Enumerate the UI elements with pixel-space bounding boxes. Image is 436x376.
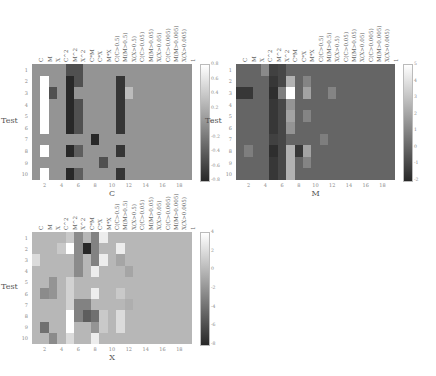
heatmap-cell: [99, 99, 107, 111]
heatmap-cell: [320, 168, 328, 180]
heatmap-cell: [116, 243, 124, 254]
heatmap-cell: [99, 87, 107, 99]
heatmap-cell: [91, 122, 99, 134]
heatmap-cell: [133, 64, 141, 76]
heatmap-cell: [57, 277, 65, 288]
heatmap-cell: [125, 322, 133, 333]
heatmap-cell: [66, 266, 74, 277]
heatmap-cell: [66, 110, 74, 122]
heatmap-cell: [353, 168, 361, 180]
heatmap-cell: [345, 110, 353, 122]
heatmap-cell: [370, 64, 378, 76]
colorbar-tick: -2: [414, 177, 418, 182]
heatmap-cell: [150, 168, 158, 180]
heatmap-cell: [184, 277, 192, 288]
heatmap-cell: [269, 122, 277, 134]
heatmap-cell: [303, 110, 311, 122]
column-label: X(X>0.5): [335, 36, 341, 62]
heatmap-cell: [295, 134, 303, 146]
heatmap-cell: [49, 310, 57, 321]
heatmap-cell: [336, 134, 344, 146]
heatmap-cell: [244, 145, 252, 157]
colorbar-tick: -8: [211, 341, 215, 346]
heatmap-cell: [133, 288, 141, 299]
heatmap-cell: [83, 87, 91, 99]
heatmap-cell: [387, 76, 395, 88]
heatmap-cell: [32, 64, 40, 76]
heatmap-cell: [184, 310, 192, 321]
column-label: M(M>0.005): [377, 25, 383, 62]
heatmap-cell: [370, 110, 378, 122]
heatmap-cell: [184, 333, 192, 344]
heatmap-cell: [32, 99, 40, 111]
colorbar-tick: 0.8: [211, 61, 218, 66]
heatmap-cell: [184, 254, 192, 265]
heatmap-cell: [370, 122, 378, 134]
heatmap-cell: [269, 134, 277, 146]
heatmap-cell: [345, 99, 353, 111]
heatmap-cell: [184, 168, 192, 180]
heatmap-cell: [244, 76, 252, 88]
heatmap-cell: [74, 99, 82, 111]
heatmap-cell: [116, 110, 124, 122]
heatmap-cell: [150, 288, 158, 299]
heatmap-cell: [133, 232, 141, 243]
heatmap-cell: [83, 288, 91, 299]
heatmap-cell: [116, 266, 124, 277]
column-label: M(M>0.05): [149, 197, 155, 230]
heatmap-cell: [141, 145, 149, 157]
heatmap-cell: [74, 157, 82, 169]
heatmap-cell: [108, 254, 116, 265]
column-label: M(M>0.05): [352, 29, 358, 62]
heatmap-cell: [74, 64, 82, 76]
column-label: M^2: [73, 216, 79, 230]
column-label: M^2: [73, 48, 79, 62]
heatmap-cell: [125, 299, 133, 310]
row-tick: 7: [18, 136, 28, 142]
heatmap-cell: [74, 122, 82, 134]
heatmap-cell: [133, 99, 141, 111]
heatmap-cell: [328, 87, 336, 99]
heatmap-cell: [57, 310, 65, 321]
row-tick: 2: [222, 78, 232, 84]
heatmap-cell: [125, 110, 133, 122]
x-axis-label: X: [102, 353, 122, 362]
heatmap-cell: [236, 64, 244, 76]
heatmap-cell: [108, 333, 116, 344]
column-label: C(C>0.5): [115, 203, 121, 230]
heatmap-cell: [158, 243, 166, 254]
heatmap-cell: [49, 134, 57, 146]
heatmap-cell: [49, 243, 57, 254]
heatmap-cell: [167, 145, 175, 157]
colorbar-tick: 3: [414, 94, 417, 99]
heatmap-cell: [167, 288, 175, 299]
heatmap-cell: [74, 299, 82, 310]
x-tick: 8: [89, 346, 101, 352]
heatmap-cell: [125, 333, 133, 344]
heatmap-cell: [158, 99, 166, 111]
heatmap-cell: [141, 87, 149, 99]
x-tick: 14: [140, 182, 152, 188]
heatmap-cell: [133, 322, 141, 333]
heatmap-cell: [269, 157, 277, 169]
heatmap-cell: [175, 266, 183, 277]
heatmap-cell: [311, 145, 319, 157]
colorbar-tick: 0.6: [211, 76, 218, 81]
heatmap-cell: [353, 64, 361, 76]
heatmap-cell: [370, 134, 378, 146]
heatmap-cell: [261, 157, 269, 169]
heatmap-cell: [32, 232, 40, 243]
heatmap-cell: [175, 322, 183, 333]
heatmap-cell: [167, 322, 175, 333]
heatmap-grid: [32, 64, 192, 180]
heatmap-cell: [253, 110, 261, 122]
heatmap-cell: [184, 76, 192, 88]
heatmap-cell: [91, 322, 99, 333]
heatmap-cell: [244, 122, 252, 134]
heatmap-cell: [49, 266, 57, 277]
heatmap-cell: [83, 333, 91, 344]
heatmap-cell: [261, 145, 269, 157]
heatmap-cell: [32, 157, 40, 169]
heatmap-cell: [378, 134, 386, 146]
heatmap-cell: [66, 243, 74, 254]
